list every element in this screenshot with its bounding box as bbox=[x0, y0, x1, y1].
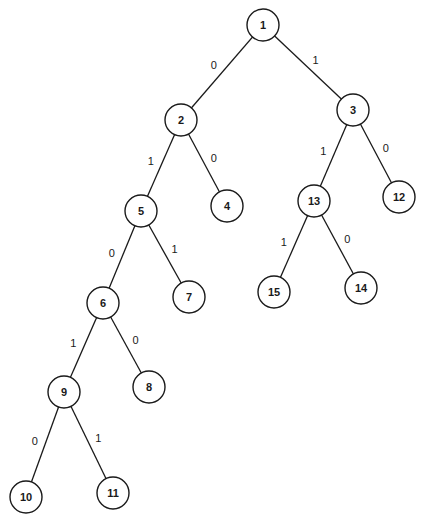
tree-node-14: 14 bbox=[345, 272, 377, 304]
tree-node-13: 13 bbox=[298, 185, 330, 217]
node-label: 2 bbox=[178, 114, 184, 126]
node-label: 12 bbox=[393, 191, 405, 203]
tree-node-8: 8 bbox=[133, 371, 165, 403]
tree-node-12: 12 bbox=[383, 181, 415, 213]
edge-label-6-9: 1 bbox=[70, 337, 76, 349]
edge-9-11 bbox=[64, 392, 113, 493]
tree-node-3: 3 bbox=[337, 94, 369, 126]
edge-label-3-12: 0 bbox=[383, 142, 389, 154]
tree-node-11: 11 bbox=[97, 477, 129, 509]
tree-nodes: 123456789101112131415 bbox=[10, 9, 415, 513]
edge-label-6-8: 0 bbox=[133, 334, 139, 346]
edge-label-1-3: 1 bbox=[313, 54, 319, 66]
edge-label-13-15: 1 bbox=[281, 236, 287, 248]
tree-node-2: 2 bbox=[165, 104, 197, 136]
edge-label-9-11: 1 bbox=[95, 432, 101, 444]
edge-label-3-13: 1 bbox=[320, 145, 326, 157]
node-label: 3 bbox=[350, 104, 356, 116]
binary-tree-diagram: 01101001101001 123456789101112131415 bbox=[0, 0, 425, 522]
tree-edges bbox=[26, 25, 399, 497]
edge-1-3 bbox=[263, 25, 353, 110]
node-label: 15 bbox=[268, 286, 280, 298]
node-label: 6 bbox=[100, 297, 106, 309]
edge-label-2-4: 0 bbox=[211, 152, 217, 164]
edge-label-1-2: 0 bbox=[211, 59, 217, 71]
tree-node-10: 10 bbox=[10, 481, 42, 513]
edge-label-9-10: 0 bbox=[32, 435, 38, 447]
node-label: 14 bbox=[355, 282, 368, 294]
edge-label-5-7: 1 bbox=[172, 243, 178, 255]
node-label: 1 bbox=[260, 19, 266, 31]
tree-node-15: 15 bbox=[258, 276, 290, 308]
tree-node-4: 4 bbox=[211, 190, 243, 222]
node-label: 8 bbox=[146, 381, 152, 393]
node-label: 5 bbox=[138, 205, 144, 217]
edge-label-13-14: 0 bbox=[344, 233, 350, 245]
tree-node-7: 7 bbox=[173, 281, 205, 313]
edge-1-2 bbox=[181, 25, 263, 120]
tree-node-6: 6 bbox=[87, 287, 119, 319]
tree-edge-labels: 01101001101001 bbox=[32, 54, 389, 447]
edge-label-2-5: 1 bbox=[148, 155, 154, 167]
node-label: 11 bbox=[107, 487, 119, 499]
node-label: 9 bbox=[61, 386, 67, 398]
node-label: 13 bbox=[308, 195, 320, 207]
node-label: 7 bbox=[186, 291, 192, 303]
tree-node-9: 9 bbox=[48, 376, 80, 408]
node-label: 10 bbox=[20, 491, 32, 503]
edge-label-5-6: 0 bbox=[109, 247, 115, 259]
tree-node-1: 1 bbox=[247, 9, 279, 41]
tree-node-5: 5 bbox=[125, 195, 157, 227]
node-label: 4 bbox=[224, 200, 231, 212]
